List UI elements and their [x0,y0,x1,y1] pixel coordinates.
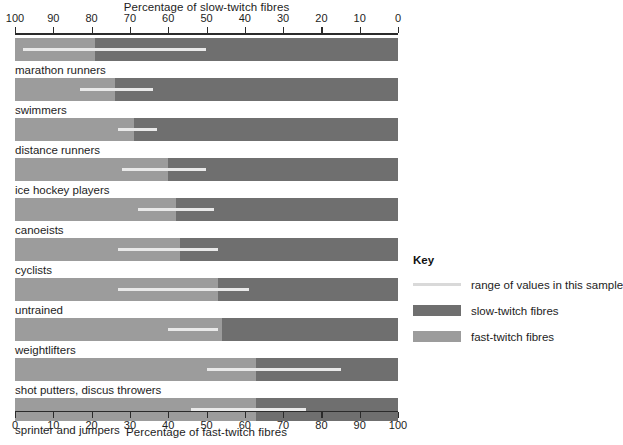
range-line [23,48,207,51]
chart-key: Key range of values in this sampleslow-t… [413,254,603,353]
bar-group: cyclists [15,238,398,278]
axis-tick [168,27,169,33]
bar-category-label: swimmers [15,101,398,118]
bar-category-label: distance runners [15,141,398,158]
range-line [122,168,206,171]
axis-tick [283,27,284,33]
range-line [118,128,156,131]
axis-tick [15,412,16,418]
range-line [80,88,153,91]
bar-category-label: marathon runners [15,61,398,78]
bar [15,118,398,141]
bar [15,78,398,101]
axis-tick [53,27,54,33]
axis-tick [245,412,246,418]
key-items: range of values in this sampleslow-twitc… [413,275,603,346]
bar-group: canoeists [15,198,398,238]
axis-tick-label: 100 [6,12,24,24]
bar-category-label: canoeists [15,221,398,238]
axis-tick [321,412,322,418]
axis-tick [398,412,399,418]
axis-tick-label: 40 [239,12,251,24]
top-axis-line [15,33,398,35]
bar-group: distance runners [15,118,398,158]
key-label: fast-twitch fibres [471,331,554,343]
axis-tick [283,412,284,418]
bar [15,238,398,261]
axis-tick [321,27,322,33]
bar-category-label: shot putters, discus throwers [15,381,398,398]
range-line [118,288,248,291]
axis-tick-label: 80 [85,12,97,24]
range-line [207,368,341,371]
bar-group: weightlifters [15,318,398,358]
bottom-axis [15,405,398,419]
top-axis-tick-labels: 1009080706050403020100 [15,12,398,26]
bar-category-label: ice hockey players [15,181,398,198]
range-line [138,208,215,211]
key-label: range of values in this sample [471,279,623,291]
axis-tick [168,412,169,418]
axis-tick [245,27,246,33]
bar-group: shot putters, discus throwers [15,358,398,398]
bar [15,38,398,61]
bar [15,318,398,341]
key-title: Key [413,254,603,266]
axis-tick [15,27,16,33]
axis-tick-label: 60 [162,12,174,24]
bar [15,198,398,221]
axis-tick-label: 30 [277,12,289,24]
axis-tick-label: 90 [47,12,59,24]
range-line [118,248,218,251]
key-item: slow-twitch fibres [413,301,603,320]
axis-tick [130,412,131,418]
axis-tick [92,412,93,418]
key-swatch-slow [413,305,461,316]
axis-tick-label: 20 [315,12,327,24]
key-swatch-fast [413,331,461,342]
axis-tick [207,412,208,418]
key-item: fast-twitch fibres [413,327,603,346]
bar-category-label: untrained [15,301,398,318]
bar [15,158,398,181]
bars-container: marathon runnersswimmersdistance runners… [15,38,398,438]
axis-tick [130,27,131,33]
key-swatch-line [413,283,461,286]
bar-group: marathon runners [15,38,398,78]
bar [15,278,398,301]
axis-tick [92,27,93,33]
axis-tick-label: 10 [354,12,366,24]
bar-category-label: weightlifters [15,341,398,358]
bar [15,358,398,381]
bar-group: untrained [15,278,398,318]
axis-tick [360,27,361,33]
axis-tick [398,27,399,33]
axis-tick-label: 70 [124,12,136,24]
key-label: slow-twitch fibres [471,305,559,317]
bottom-axis-title: Percentage of fast-twitch fibres [15,426,398,438]
range-line [168,328,218,331]
bar-group: ice hockey players [15,158,398,198]
axis-tick [207,27,208,33]
bar-category-label: cyclists [15,261,398,278]
chart-area: Percentage of slow-twitch fibres 1009080… [0,0,410,445]
key-item: range of values in this sample [413,275,603,294]
bar-group: swimmers [15,78,398,118]
axis-tick [53,412,54,418]
axis-tick-label: 50 [200,12,212,24]
axis-tick-label: 0 [395,12,401,24]
bar-segment-fast-twitch [15,118,134,141]
axis-tick [360,412,361,418]
